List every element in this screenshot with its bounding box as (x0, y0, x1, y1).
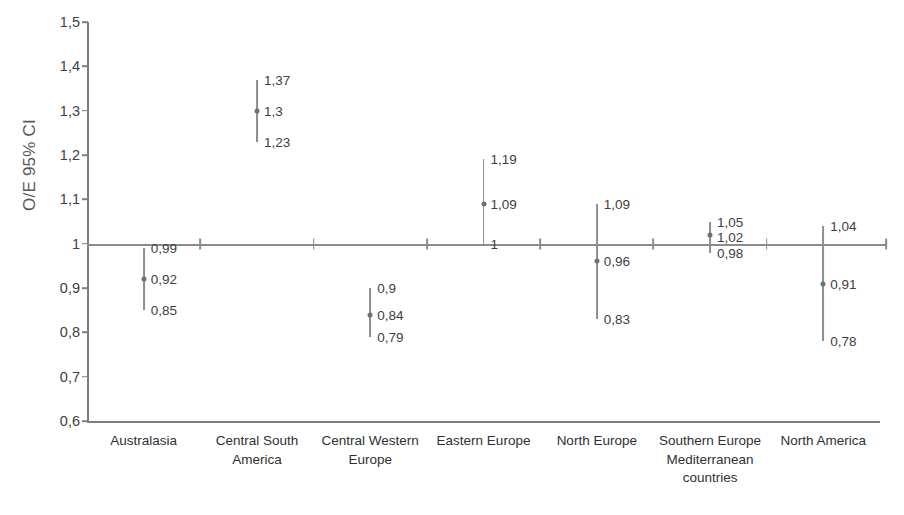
ci-upper-label: 1,09 (604, 196, 630, 211)
ci-lower-label: 0,79 (377, 329, 403, 344)
forest-plot-chart: O/E 95% CI 1,51,41,31,21,110,90,80,70,6 … (0, 0, 904, 515)
data-point-marker (708, 232, 713, 237)
ci-lower-label: 0,98 (717, 245, 743, 260)
point-value-label: 1,3 (264, 103, 283, 118)
reference-line-tick (766, 238, 768, 249)
y-axis-tick-label: 1,1 (40, 191, 80, 207)
y-axis-tick-label: 1,3 (40, 103, 80, 119)
ci-upper-label: 1,19 (491, 152, 517, 167)
data-point-marker (368, 312, 373, 317)
point-value-label: 0,92 (151, 272, 177, 287)
y-axis-tick-label: 0,7 (40, 369, 80, 385)
data-point-marker (821, 281, 826, 286)
y-axis-tick-label: 1 (40, 236, 80, 252)
y-axis-tick-label: 1,4 (40, 58, 80, 74)
data-point-marker (594, 259, 599, 264)
ci-lower-label: 0,83 (604, 312, 630, 327)
y-axis-line (87, 22, 89, 423)
y-axis-tick-label: 1,5 (40, 14, 80, 30)
reference-line-tick (653, 238, 655, 249)
reference-line-tick (539, 238, 541, 249)
data-point-marker (481, 201, 486, 206)
y-axis-tick-label: 0,8 (40, 324, 80, 340)
ci-upper-label: 1,37 (264, 72, 290, 87)
point-value-label: 1,02 (717, 229, 743, 244)
reference-line-tick (199, 238, 201, 249)
reference-line-tick (313, 238, 315, 249)
ci-lower-label: 0,78 (830, 334, 856, 349)
ci-lower-label: 1 (491, 236, 499, 251)
data-point-marker (254, 108, 259, 113)
reference-line-end-tick (885, 238, 887, 249)
ci-upper-label: 1,04 (830, 218, 856, 233)
point-value-label: 1,09 (491, 196, 517, 211)
point-value-label: 0,84 (377, 307, 403, 322)
y-axis-tick-label: 0,9 (40, 280, 80, 296)
ci-upper-label: 0,99 (151, 241, 177, 256)
data-point-marker (141, 277, 146, 282)
y-axis-tick-label: 1,2 (40, 147, 80, 163)
ci-lower-label: 1,23 (264, 134, 290, 149)
y-axis-tick-label: 0,6 (40, 413, 80, 429)
ci-upper-label: 0,9 (377, 281, 396, 296)
x-axis-line (87, 421, 880, 423)
x-axis-category-label: North America (755, 432, 892, 451)
point-value-label: 0,96 (604, 254, 630, 269)
ci-upper-label: 1,05 (717, 214, 743, 229)
y-axis-title: O/E 95% CI (20, 55, 40, 275)
reference-line-tick (426, 238, 428, 249)
point-value-label: 0,91 (830, 276, 856, 291)
ci-lower-label: 0,85 (151, 303, 177, 318)
